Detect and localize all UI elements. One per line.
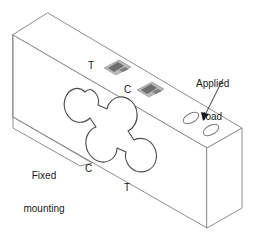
- applied-load-label-line2: load: [196, 111, 229, 122]
- compression-label-bottom: C: [85, 163, 92, 174]
- applied-load-label: Applied load: [196, 56, 229, 144]
- tension-label-top: T: [88, 60, 94, 71]
- tension-label-bottom: T: [124, 182, 130, 193]
- fixed-mounting-label-line1: Fixed: [8, 170, 80, 181]
- applied-load-label-line1: Applied: [196, 78, 229, 89]
- fixed-mounting-point-label: Fixed mounting point: [8, 148, 80, 234]
- fixed-mounting-label-line2: mounting: [8, 203, 80, 214]
- diagram-canvas: Applied load Fixed mounting point T C C …: [0, 0, 256, 234]
- compression-label-top: C: [124, 84, 131, 95]
